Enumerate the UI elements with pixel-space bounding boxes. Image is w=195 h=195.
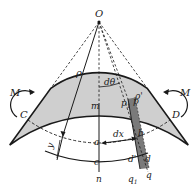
label-D: D [171, 109, 180, 120]
dx-arrow [103, 139, 135, 143]
label-m: m [91, 101, 100, 111]
label-d: d [145, 154, 151, 164]
label-d-prime: d' [128, 154, 136, 164]
bending-diagram: O ρ dθ ρ' M M C D m p1 p a dx b c d' d n… [0, 0, 195, 195]
label-q1: q1 [128, 174, 138, 185]
label-b: b [138, 128, 144, 138]
moment-arrowhead-left [29, 89, 35, 95]
label-dx: dx [113, 129, 124, 139]
label-p: p [133, 96, 139, 106]
diagram-canvas: O ρ dθ ρ' M M C D m p1 p a dx b c d' d n… [0, 0, 195, 195]
dx-arrowhead-left [101, 141, 107, 146]
moment-arrowhead-right [163, 89, 169, 95]
label-y: y [44, 141, 56, 151]
center-point [97, 20, 100, 23]
label-n: n [96, 174, 102, 184]
label-M-left: M [9, 87, 21, 98]
label-q: q [146, 170, 152, 180]
label-C: C [20, 109, 28, 120]
label-rho: ρ [75, 67, 82, 78]
label-a: a [94, 137, 99, 147]
label-O: O [95, 8, 103, 19]
label-c: c [94, 157, 99, 167]
label-dtheta: dθ [104, 77, 116, 87]
label-M-right: M [179, 87, 191, 98]
radius-arrowhead [61, 131, 66, 137]
